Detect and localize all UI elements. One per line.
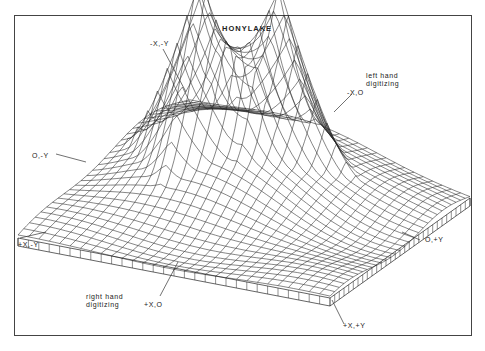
label-zero-pos-y: O,+Y [425, 236, 444, 244]
label-neg-x-neg-y: -X,-Y [150, 40, 169, 48]
label-right-hand-digitizing: right hand digitizing [86, 293, 123, 309]
label-pos-x-0: +X,O [144, 301, 163, 309]
label-zero-neg-y: O,-Y [32, 152, 49, 160]
label-pos-x-pos-y: +X,+Y [343, 322, 365, 330]
wireframe-surface-plot [0, 0, 485, 351]
label-left-hand-digitizing: left hand digitizing [366, 72, 399, 88]
label-neg-x-0: -X,O [347, 89, 364, 97]
label-pos-x-neg-y: +X,-Y [18, 241, 39, 249]
